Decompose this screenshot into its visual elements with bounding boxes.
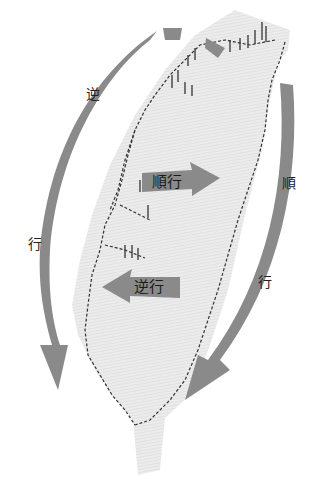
clockwise-inner-label: 順行	[152, 175, 182, 190]
outer-ccw-label-1: 逆	[86, 87, 100, 101]
counterclockwise-inner-label: 逆行	[134, 280, 164, 295]
outer-ccw-label-2: 行	[28, 237, 42, 251]
taiwan-rail-direction-diagram	[0, 0, 323, 482]
outer-cw-label-2: 行	[258, 275, 272, 289]
outer-cw-label-1: 順	[282, 176, 296, 190]
